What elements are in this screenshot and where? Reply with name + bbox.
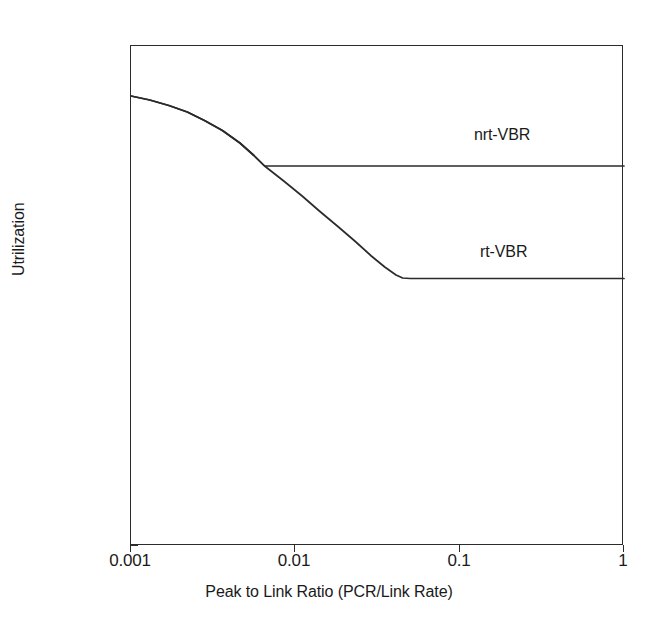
y-axis-title: Utrilization	[10, 116, 28, 276]
x-tick-label-1: 1	[578, 552, 658, 570]
chart-figure: Utrilization 100% 90% 80% 70% 60% 50% 40…	[0, 0, 658, 624]
series-label-nrt-vbr: nrt-VBR	[474, 126, 530, 143]
x-tick-label-0-001: 0.001	[85, 552, 175, 570]
series-line-nrt-vbr	[131, 96, 624, 166]
x-tick-label-0-1: 0.1	[414, 552, 504, 570]
series-label-rt-vbr: rt-VBR	[480, 243, 527, 260]
plot-area	[130, 45, 623, 545]
chart-canvas	[131, 46, 624, 546]
series-line-rt-vbr	[131, 96, 624, 279]
x-tick-label-0-01: 0.01	[249, 552, 339, 570]
x-axis-title: Peak to Link Ratio (PCR/Link Rate)	[0, 583, 658, 601]
